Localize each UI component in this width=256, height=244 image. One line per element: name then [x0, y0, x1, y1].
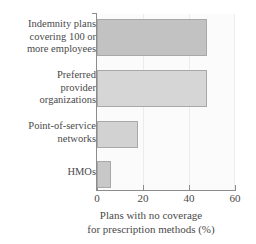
x-tick-label-40: 40	[177, 192, 201, 205]
category-label-line: more employees	[27, 43, 96, 54]
category-label-line: HMOs	[67, 166, 96, 177]
x-axis-title: Plans with no coverage for prescription …	[56, 208, 246, 236]
x-tick-20	[143, 185, 144, 191]
x-tick-label-20: 20	[131, 192, 155, 205]
bar-chart: 0 20 40 60 Indemnity plans covering 100 …	[0, 0, 256, 244]
x-axis-title-line1: Plans with no coverage	[100, 209, 202, 221]
bar-indemnity-plans	[97, 19, 207, 56]
bar-hmos	[97, 161, 111, 188]
bar-preferred-provider-organizations	[97, 70, 207, 107]
category-label-point-of-service-networks: Point-of-service networks	[0, 120, 96, 145]
category-label-indemnity-plans: Indemnity plans covering 100 or more emp…	[0, 18, 96, 56]
category-label-line: provider	[60, 82, 96, 93]
x-tick-label-0: 0	[85, 192, 109, 205]
x-tick-40	[189, 185, 190, 191]
y-axis-top-cap	[92, 13, 97, 14]
x-axis-line	[96, 190, 236, 191]
x-axis-title-line2: for prescription methods (%)	[56, 222, 246, 236]
category-label-line: organizations	[40, 94, 96, 105]
bar-point-of-service-networks	[97, 121, 138, 148]
category-label-line: Point-of-service	[28, 120, 96, 131]
category-label-line: Preferred	[57, 69, 96, 80]
category-label-line: Indemnity plans	[28, 18, 96, 29]
category-label-line: networks	[58, 133, 97, 144]
category-label-hmos: HMOs	[0, 166, 96, 179]
category-label-preferred-provider-organizations: Preferred provider organizations	[0, 69, 96, 107]
category-label-line: covering 100 or	[30, 31, 96, 42]
gridline-60	[234, 14, 235, 190]
x-tick-label-60: 60	[223, 192, 247, 205]
x-axis-right-cap	[235, 185, 236, 191]
